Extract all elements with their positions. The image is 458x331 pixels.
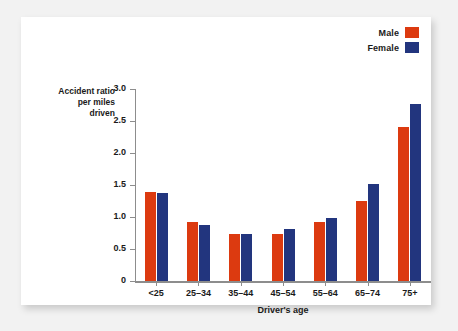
y-tick-label: 0.5 [113,243,126,254]
x-tick-label: 75+ [380,288,440,299]
y-axis-line [135,89,136,281]
chart-card: Male Female Accident ratio per miles dri… [21,17,431,305]
bar-female-65–74 [368,184,379,281]
x-axis-label: Driver's age [135,305,431,316]
y-axis-label-line-1: Accident ratio [43,86,115,97]
y-tick-label: 0 [121,275,126,286]
bar-female-35–44 [241,234,252,281]
x-tick [325,281,326,286]
bar-female-25–34 [199,225,210,281]
bar-female-<25 [157,193,168,281]
y-tick-label: 1.0 [113,211,126,222]
y-tick: 0 [130,281,135,282]
bar-female-75+ [410,104,421,281]
bar-male-45–54 [272,234,283,281]
bar-female-55–64 [326,218,337,281]
bar-male-35–44 [229,234,240,281]
x-tick [410,281,411,286]
bar-female-45–54 [284,229,295,281]
y-tick: 1.0 [130,217,135,218]
y-axis-label-line-2: per miles [43,97,115,108]
y-axis-label: Accident ratio per miles driven [43,86,115,119]
legend-swatch-female-icon [405,42,419,53]
x-tick [368,281,369,286]
x-tick [156,281,157,286]
bar-male-<25 [145,192,156,281]
y-tick: 3.0 [130,89,135,90]
legend-swatch-male-icon [405,27,419,38]
x-tick [283,281,284,286]
bar-male-55–64 [314,222,325,281]
legend-item-male: Male [379,27,419,38]
plot-area: 00.51.01.52.02.53.0 <2525–3435–4445–5455… [135,89,431,281]
bar-male-75+ [398,127,409,281]
y-axis-label-line-3: driven [43,108,115,119]
bar-male-65–74 [356,201,367,281]
y-tick-label: 3.0 [113,83,126,94]
y-tick: 0.5 [130,249,135,250]
y-tick: 2.0 [130,153,135,154]
y-tick: 1.5 [130,185,135,186]
x-tick [198,281,199,286]
chart-legend: Male Female [367,27,419,53]
legend-item-female: Female [367,42,419,53]
legend-label-female: Female [367,43,399,53]
legend-label-male: Male [379,28,399,38]
bar-male-25–34 [187,222,198,281]
x-tick [241,281,242,286]
y-tick: 2.5 [130,121,135,122]
y-tick-label: 2.0 [113,147,126,158]
y-tick-label: 2.5 [113,115,126,126]
y-tick-label: 1.5 [113,179,126,190]
figure-page: Male Female Accident ratio per miles dri… [0,0,458,331]
